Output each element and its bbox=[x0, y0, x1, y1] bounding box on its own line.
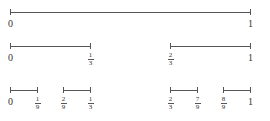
interval-segment bbox=[10, 90, 37, 91]
fraction-denominator: 9 bbox=[61, 104, 67, 111]
fraction-label: 79 bbox=[195, 96, 201, 111]
fraction-numerator: 2 bbox=[61, 96, 67, 103]
interval-segment bbox=[10, 46, 90, 47]
fraction-label: 13 bbox=[88, 52, 94, 67]
fraction-denominator: 3 bbox=[88, 104, 94, 111]
endpoint-tick bbox=[90, 43, 91, 49]
fraction-numerator: 1 bbox=[88, 52, 94, 59]
endpoint-tick bbox=[250, 9, 251, 15]
fraction-numerator: 7 bbox=[195, 96, 201, 103]
fraction-numerator: 2 bbox=[168, 96, 174, 103]
fraction-label: 19 bbox=[35, 96, 41, 111]
endpoint-tick bbox=[10, 87, 11, 93]
fraction-numerator: 1 bbox=[35, 96, 41, 103]
interval-segment bbox=[63, 90, 90, 91]
endpoint-label: 0 bbox=[8, 19, 13, 29]
fraction-label: 29 bbox=[61, 96, 67, 111]
fraction-label: 23 bbox=[168, 96, 174, 111]
fraction-denominator: 9 bbox=[195, 104, 201, 111]
endpoint-tick bbox=[250, 43, 251, 49]
endpoint-tick bbox=[170, 43, 171, 49]
interval-segment bbox=[10, 12, 250, 13]
fraction-numerator: 8 bbox=[221, 96, 227, 103]
endpoint-label: 0 bbox=[8, 53, 13, 63]
endpoint-label: 0 bbox=[8, 97, 13, 107]
fraction-numerator: 2 bbox=[168, 52, 174, 59]
endpoint-tick bbox=[170, 87, 171, 93]
fraction-label: 13 bbox=[88, 96, 94, 111]
endpoint-tick bbox=[10, 9, 11, 15]
fraction-label: 23 bbox=[168, 52, 174, 67]
interval-segment bbox=[170, 46, 250, 47]
endpoint-tick bbox=[37, 87, 38, 93]
interval-segment bbox=[170, 90, 197, 91]
endpoint-tick bbox=[90, 87, 91, 93]
endpoint-tick bbox=[250, 87, 251, 93]
endpoint-label: 1 bbox=[248, 97, 253, 107]
endpoint-tick bbox=[10, 43, 11, 49]
endpoint-label: 1 bbox=[248, 53, 253, 63]
endpoint-label: 1 bbox=[248, 19, 253, 29]
fraction-denominator: 3 bbox=[168, 60, 174, 67]
fraction-denominator: 9 bbox=[35, 104, 41, 111]
fraction-numerator: 1 bbox=[88, 96, 94, 103]
endpoint-tick bbox=[197, 87, 198, 93]
fraction-label: 89 bbox=[221, 96, 227, 111]
fraction-denominator: 3 bbox=[168, 104, 174, 111]
fraction-denominator: 9 bbox=[221, 104, 227, 111]
endpoint-tick bbox=[63, 87, 64, 93]
interval-segment bbox=[223, 90, 250, 91]
fraction-denominator: 3 bbox=[88, 60, 94, 67]
endpoint-tick bbox=[223, 87, 224, 93]
